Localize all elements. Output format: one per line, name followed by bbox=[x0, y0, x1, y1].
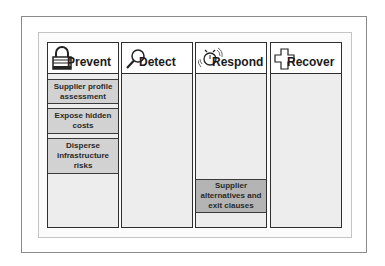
column-title-prevent: Prevent bbox=[67, 55, 111, 69]
card-label: Disperse infrastructure risks bbox=[50, 141, 116, 171]
column-header-prevent: Prevent bbox=[48, 43, 118, 74]
column-title-detect: Detect bbox=[139, 55, 176, 69]
column-respond: Respond Supplier alternatives and exit c… bbox=[195, 42, 267, 228]
column-detect: Detect bbox=[121, 42, 193, 228]
card-supplier-alternatives-exit-clauses: Supplier alternatives and exit clauses bbox=[196, 179, 266, 213]
card-label: Supplier alternatives and exit clauses bbox=[198, 181, 264, 211]
card-label: Supplier profile assessment bbox=[50, 82, 116, 102]
card-expose-hidden-costs: Expose hidden costs bbox=[48, 108, 118, 134]
column-header-detect: Detect bbox=[122, 43, 192, 74]
card-label: Expose hidden costs bbox=[50, 111, 116, 131]
card-disperse-infrastructure-risks: Disperse infrastructure risks bbox=[48, 138, 118, 174]
card-supplier-profile-assessment: Supplier profile assessment bbox=[48, 79, 118, 104]
column-prevent: Prevent Supplier profile assessment Expo… bbox=[47, 42, 119, 228]
column-recover: Recover bbox=[270, 42, 342, 228]
column-header-respond: Respond bbox=[196, 43, 266, 74]
column-title-respond: Respond bbox=[212, 55, 263, 69]
column-header-recover: Recover bbox=[271, 43, 341, 74]
column-title-recover: Recover bbox=[287, 55, 334, 69]
